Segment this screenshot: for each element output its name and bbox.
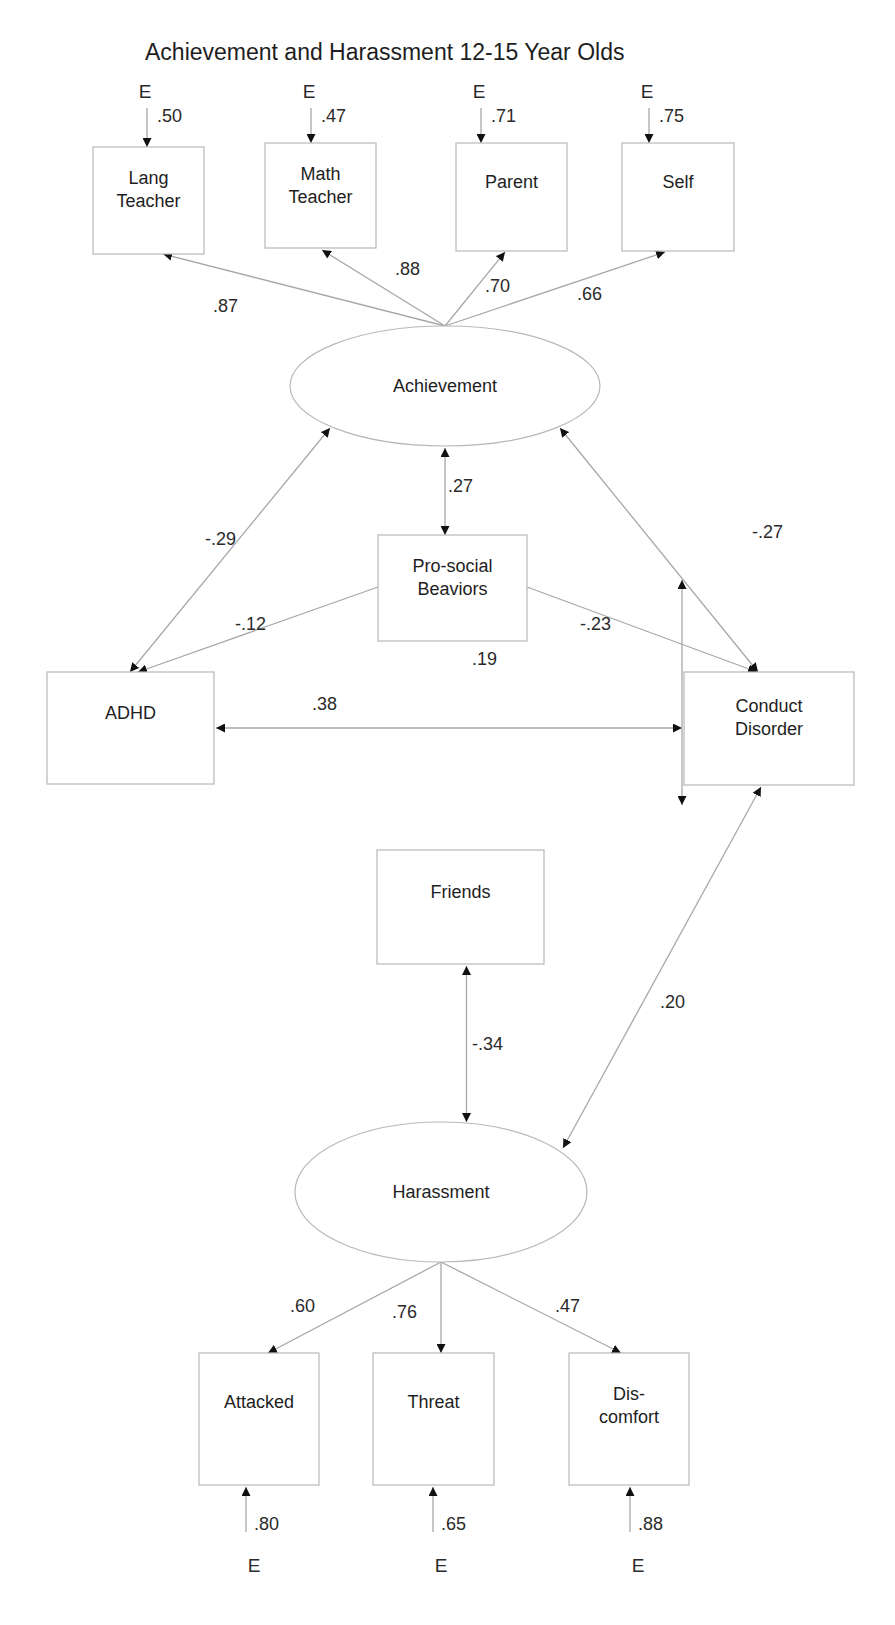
node-label: Lang	[128, 168, 168, 188]
node-label: Threat	[407, 1392, 459, 1412]
loading-value-discomfort: .47	[555, 1296, 580, 1316]
error-label: E	[632, 1555, 645, 1576]
node-achievement: Achievement	[290, 326, 600, 446]
node-conduct: ConductDisorder	[684, 672, 854, 785]
node-label: Pro-social	[412, 556, 492, 576]
loading-value-parent: .70	[485, 276, 510, 296]
corr-value-achievement-adhd: -.29	[205, 529, 236, 549]
loading-value-attacked: .60	[290, 1296, 315, 1316]
node-label: Beaviors	[417, 579, 487, 599]
error-label: E	[641, 81, 654, 102]
node-label: ADHD	[105, 703, 156, 723]
corr-arrow-conduct-harassment	[563, 787, 761, 1148]
path-arrow-prosocial-conduct	[527, 587, 757, 672]
node-label: Achievement	[393, 376, 497, 396]
node-discomfort: Dis-comfort	[569, 1353, 689, 1485]
error-label: E	[248, 1555, 261, 1576]
corr-arrow-achievement-adhd	[130, 428, 330, 672]
corr-value-conduct-harassment: .20	[660, 992, 685, 1012]
loading-arrow-discomfort	[441, 1262, 621, 1353]
node-label: Teacher	[116, 191, 180, 211]
node-threat: Threat	[373, 1353, 494, 1485]
loading-value-math-teacher: .88	[395, 259, 420, 279]
error-label: E	[139, 81, 152, 102]
loading-arrow-math-teacher	[322, 250, 445, 326]
node-label: Math	[300, 164, 340, 184]
node-prosocial: Pro-socialBeaviors	[378, 535, 527, 641]
path-value-prosocial-adhd: -.12	[235, 614, 266, 634]
node-label: Dis-	[613, 1384, 645, 1404]
node-label: Teacher	[288, 187, 352, 207]
error-value: .88	[638, 1514, 663, 1534]
error-label: E	[435, 1555, 448, 1576]
corr-value-achievement-conduct: -.27	[752, 522, 783, 542]
corr-value-achievement-prosocial: .27	[448, 476, 473, 496]
node-label: comfort	[599, 1407, 659, 1427]
loading-value-self: .66	[577, 284, 602, 304]
node-label: Self	[662, 172, 694, 192]
node-label: Conduct	[735, 696, 802, 716]
error-value: .65	[441, 1514, 466, 1534]
error-value: .50	[157, 106, 182, 126]
node-adhd: ADHD	[47, 672, 214, 784]
error-value: .71	[491, 106, 516, 126]
error-label: E	[303, 81, 316, 102]
corr-value-conduct-vertical: .19	[472, 649, 497, 669]
node-parent: Parent	[456, 143, 567, 251]
error-term-discomfort: .88E	[632, 1514, 663, 1576]
node-label: Friends	[430, 882, 490, 902]
loading-arrow-self	[445, 252, 665, 326]
corr-value-friends-harassment: -.34	[472, 1034, 503, 1054]
node-self: Self	[622, 143, 734, 251]
error-term-math-teacher: E.47	[303, 81, 346, 126]
error-term-threat: .65E	[435, 1514, 466, 1576]
error-value: .47	[321, 106, 346, 126]
loading-value-lang-teacher: .87	[213, 296, 238, 316]
node-friends: Friends	[377, 850, 544, 964]
diagram-title: Achievement and Harassment 12-15 Year Ol…	[145, 39, 624, 65]
node-label: Attacked	[224, 1392, 294, 1412]
node-harassment: Harassment	[295, 1122, 587, 1262]
error-label: E	[473, 81, 486, 102]
error-value: .75	[659, 106, 684, 126]
error-value: .80	[254, 1514, 279, 1534]
corr-value-adhd-conduct: .38	[312, 694, 337, 714]
error-term-attacked: .80E	[248, 1514, 279, 1576]
node-label: Disorder	[735, 719, 803, 739]
error-term-parent: E.71	[473, 81, 516, 126]
loading-value-threat: .76	[392, 1302, 417, 1322]
node-math-teacher: MathTeacher	[265, 143, 376, 248]
error-term-self: E.75	[641, 81, 684, 126]
node-attacked: Attacked	[199, 1353, 319, 1485]
error-term-lang-teacher: E.50	[139, 81, 182, 126]
node-label: Harassment	[392, 1182, 489, 1202]
path-value-prosocial-conduct: -.23	[580, 614, 611, 634]
node-label: Parent	[485, 172, 538, 192]
node-lang-teacher: LangTeacher	[93, 147, 204, 254]
